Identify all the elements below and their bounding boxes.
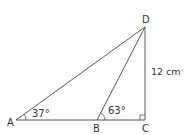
right-angle-marker	[140, 115, 145, 120]
point-label-D: D	[142, 14, 150, 25]
angle-label-B: 63°	[108, 105, 126, 116]
point-label-C: C	[142, 123, 149, 134]
side-length-DC: 12 cm	[151, 66, 181, 77]
angle-label-A: 37°	[32, 108, 50, 119]
point-label-B: B	[93, 123, 100, 134]
point-label-A: A	[7, 117, 14, 128]
angle-arc-A	[24, 114, 26, 120]
triangle-diagram: A B C D 37° 63° 12 cm	[0, 0, 191, 135]
angle-arc-B	[101, 113, 105, 120]
